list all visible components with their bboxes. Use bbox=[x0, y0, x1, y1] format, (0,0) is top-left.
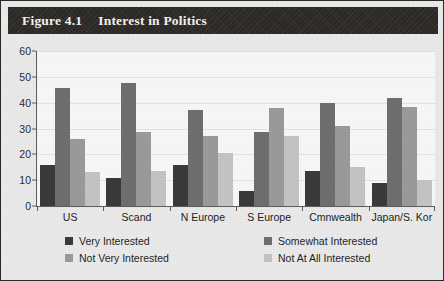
bar bbox=[320, 103, 335, 206]
bar bbox=[188, 110, 203, 206]
plot-outer: 0102030405060 USScandN EuropeS EuropeCmn… bbox=[8, 39, 438, 224]
bars-layer bbox=[37, 51, 435, 206]
bar bbox=[284, 136, 299, 206]
bar bbox=[40, 165, 55, 206]
legend-label: Very Interested bbox=[79, 235, 150, 247]
legend-swatch-icon bbox=[65, 254, 73, 262]
legend-label: Somewhat Interested bbox=[278, 235, 377, 247]
bar bbox=[269, 108, 284, 206]
bar bbox=[55, 88, 70, 206]
y-axis-tick-label: 40 bbox=[19, 97, 31, 109]
figure-header: Figure 4.1Interest in Politics bbox=[8, 7, 438, 34]
chart-legend: Very InterestedSomewhat InterestedNot Ve… bbox=[37, 235, 435, 264]
figure-number: Figure 4.1 bbox=[22, 13, 82, 28]
bar-group bbox=[369, 51, 435, 206]
legend-item: Not At All Interested bbox=[236, 252, 435, 264]
bar-group bbox=[37, 51, 103, 206]
bar bbox=[254, 132, 269, 206]
x-axis-tick-label: Cmnwealth bbox=[302, 211, 368, 223]
legend-item: Very Interested bbox=[37, 235, 236, 247]
legend-swatch-icon bbox=[65, 237, 73, 245]
x-axis-tick-label: Japan/S. Kor bbox=[369, 211, 435, 223]
figure-container: Figure 4.1Interest in Politics 010203040… bbox=[0, 0, 444, 281]
bar bbox=[70, 139, 85, 206]
x-axis-tick-label: N Europe bbox=[170, 211, 236, 223]
bar-group bbox=[236, 51, 302, 206]
bar bbox=[417, 180, 432, 206]
bar bbox=[218, 153, 233, 206]
bar bbox=[335, 126, 350, 206]
y-axis-tick-label: 30 bbox=[19, 123, 31, 135]
bar-group bbox=[302, 51, 368, 206]
chart: 0102030405060 USScandN EuropeS EuropeCmn… bbox=[8, 39, 438, 275]
x-axis-tick-label: S Europe bbox=[236, 211, 302, 223]
legend-label: Not At All Interested bbox=[278, 252, 370, 264]
bar-group bbox=[103, 51, 169, 206]
bar bbox=[85, 172, 100, 206]
y-axis-tick-label: 10 bbox=[19, 174, 31, 186]
bar bbox=[121, 83, 136, 206]
figure-header-text: Figure 4.1Interest in Politics bbox=[22, 13, 207, 29]
y-axis-labels: 0102030405060 bbox=[8, 51, 36, 206]
y-axis-tick-label: 50 bbox=[19, 71, 31, 83]
bar bbox=[387, 98, 402, 207]
bar bbox=[151, 171, 166, 206]
y-axis-tick-label: 20 bbox=[19, 148, 31, 160]
bar bbox=[350, 167, 365, 206]
x-axis-tick-label: Scand bbox=[103, 211, 169, 223]
bar bbox=[239, 191, 254, 207]
legend-swatch-icon bbox=[264, 254, 272, 262]
x-axis-tick-label: US bbox=[37, 211, 103, 223]
legend-item: Not Very Interested bbox=[37, 252, 236, 264]
legend-item: Somewhat Interested bbox=[236, 235, 435, 247]
plot-area bbox=[37, 51, 435, 206]
y-axis-tick-label: 0 bbox=[25, 200, 31, 212]
x-axis-labels: USScandN EuropeS EuropeCmnwealthJapan/S.… bbox=[37, 211, 435, 223]
y-axis-tick-label: 60 bbox=[19, 45, 31, 57]
legend-label: Not Very Interested bbox=[79, 252, 169, 264]
bar bbox=[203, 136, 218, 206]
figure-title: Interest in Politics bbox=[98, 13, 207, 28]
bar bbox=[136, 132, 151, 206]
bar bbox=[106, 178, 121, 206]
bar-group bbox=[170, 51, 236, 206]
legend-swatch-icon bbox=[264, 237, 272, 245]
bar bbox=[402, 107, 417, 206]
bar bbox=[173, 165, 188, 206]
bar bbox=[372, 183, 387, 206]
bar bbox=[305, 171, 320, 206]
